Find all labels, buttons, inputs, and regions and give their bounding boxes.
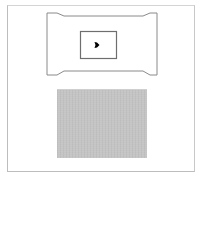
gray-texture-panel — [57, 89, 147, 158]
